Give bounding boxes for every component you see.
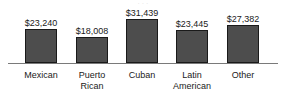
bar <box>227 25 259 63</box>
bar <box>176 30 208 63</box>
category-label-line: Other <box>213 70 273 81</box>
bar <box>25 29 57 63</box>
category-label-line: Rican <box>62 81 122 92</box>
bar <box>76 37 108 63</box>
category-label-line: American <box>162 81 222 92</box>
category-label: Other <box>213 70 273 81</box>
x-axis-line <box>8 63 278 64</box>
bar-value-label: $31,439 <box>112 8 172 18</box>
bar-value-label: $18,008 <box>62 26 122 36</box>
bar <box>126 19 158 63</box>
bar-value-label: $27,382 <box>213 14 273 24</box>
bar-chart: · · · $23,240Mexican$18,008PuertoRican$3… <box>0 0 286 100</box>
plot-area: $23,240Mexican$18,008PuertoRican$31,439C… <box>0 0 286 100</box>
